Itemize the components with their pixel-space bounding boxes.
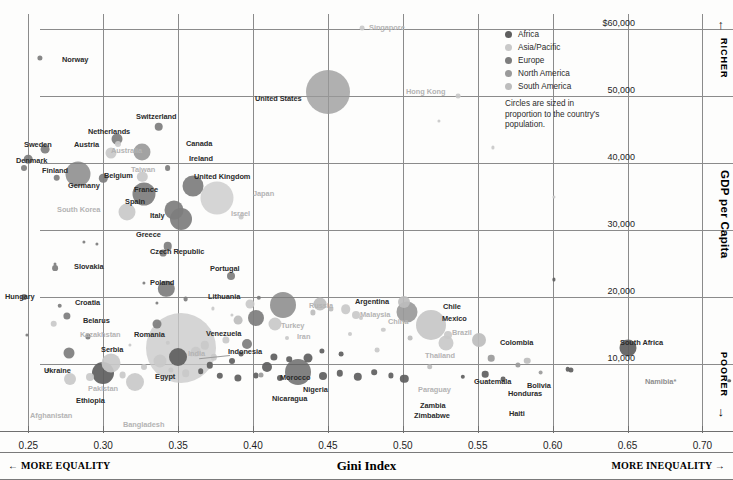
y-tick-label-10000: 10,000 <box>607 353 635 363</box>
bubble-nicaragua[interactable] <box>258 372 263 377</box>
country-label-greece: Greece <box>136 231 161 239</box>
bubble-unlabeled[interactable] <box>286 356 292 362</box>
x-axis-baseline <box>0 431 733 432</box>
bubble-ukraine[interactable] <box>63 347 74 358</box>
country-label-serbia: Serbia <box>101 346 123 354</box>
bubble-unlabeled[interactable] <box>388 373 393 378</box>
bubble-unlabeled[interactable] <box>142 281 145 284</box>
legend-item-europe[interactable]: Europe <box>505 54 635 67</box>
bubble-unlabeled[interactable] <box>285 336 289 340</box>
bubble-colombia[interactable] <box>472 333 486 347</box>
country-label-finland: Finland <box>42 167 68 175</box>
bubble-namibia[interactable] <box>565 367 570 372</box>
bubble-russia[interactable] <box>270 292 296 318</box>
bubble-haiti[interactable] <box>538 370 543 375</box>
bubble-morocco[interactable] <box>262 362 272 372</box>
country-label-slovakia: Slovakia <box>74 263 104 271</box>
bubble-unlabeled[interactable] <box>154 354 167 367</box>
bubble-unlabeled[interactable] <box>461 374 465 378</box>
bubble-unlabeled[interactable] <box>319 372 327 380</box>
bubble-romania[interactable] <box>153 320 162 329</box>
bubble-unlabeled[interactable] <box>182 370 190 378</box>
x-tick-mark-0.65 <box>628 426 629 433</box>
bubble-unlabeled[interactable] <box>246 300 255 309</box>
x-tick-label-0.55: 0.55 <box>468 440 487 451</box>
bubble-unlabeled[interactable] <box>319 349 324 354</box>
bubble-united-states[interactable] <box>306 70 350 114</box>
bubble-hong-kong[interactable] <box>456 93 461 98</box>
bubble-bangladesh[interactable] <box>126 373 144 391</box>
bubble-unlabeled[interactable] <box>156 301 159 304</box>
country-label-argentina: Argentina <box>355 298 389 306</box>
bubble-honduras[interactable] <box>516 362 521 367</box>
bubble-unlabeled[interactable] <box>553 195 556 198</box>
bubble-unlabeled[interactable] <box>206 362 212 368</box>
bubble-malaysia[interactable] <box>341 304 351 314</box>
bubble-unlabeled[interactable] <box>54 263 57 266</box>
bubble-unlabeled[interactable] <box>437 120 440 123</box>
bubble-guatemala[interactable] <box>488 355 495 362</box>
bubble-unlabeled[interactable] <box>129 343 132 346</box>
bubble-unlabeled[interactable] <box>270 354 277 361</box>
bubble-venezuela[interactable] <box>234 315 243 324</box>
bubble-unlabeled[interactable] <box>82 240 85 243</box>
bubble-paraguay[interactable] <box>427 364 433 370</box>
bubble-unlabeled[interactable] <box>211 307 214 310</box>
bubble-unlabeled[interactable] <box>234 374 241 381</box>
bubble-unlabeled[interactable] <box>310 310 315 315</box>
y-axis-poorer-label: POORER <box>719 352 729 397</box>
bubble-unlabeled[interactable] <box>381 328 385 332</box>
bubble-finland[interactable] <box>53 174 60 181</box>
bubble-belarus[interactable] <box>64 312 71 319</box>
bubble-japan[interactable] <box>201 181 234 214</box>
bubble-lithuania[interactable] <box>183 297 188 302</box>
bubble-switzerland[interactable] <box>154 122 163 131</box>
country-label-nicaragua: Nicaragua <box>272 395 307 403</box>
bubble-portugal[interactable] <box>227 272 235 280</box>
bubble-bolivia[interactable] <box>524 357 531 364</box>
x-tick-label-0.30: 0.30 <box>93 440 112 451</box>
legend-item-north-america[interactable]: North America <box>505 67 635 80</box>
legend-item-africa[interactable]: Africa <box>505 28 635 41</box>
bubble-chile[interactable] <box>398 296 410 308</box>
bubble-unlabeled[interactable] <box>229 358 235 364</box>
bubble-unlabeled[interactable] <box>257 295 261 299</box>
bubble-unlabeled[interactable] <box>491 146 494 149</box>
legend: AfricaAsia/PacificEuropeNorth AmericaSou… <box>505 28 635 131</box>
bubble-spain[interactable] <box>164 201 183 220</box>
bubble-unlabeled[interactable] <box>86 373 94 381</box>
bubble-turkey[interactable] <box>248 310 264 326</box>
bubble-unlabeled[interactable] <box>372 369 378 375</box>
bubble-unlabeled[interactable] <box>337 370 343 376</box>
bubble-unlabeled[interactable] <box>198 369 204 375</box>
bubble-pakistan[interactable] <box>101 353 120 372</box>
bubble-norway[interactable] <box>38 56 43 61</box>
bubble-unlabeled[interactable] <box>339 351 344 356</box>
country-label-afghanistan: Afghanistan <box>30 412 72 420</box>
bubble-croatia[interactable] <box>57 303 62 308</box>
country-label-paraguay: Paraguay <box>418 386 451 394</box>
bubble-unlabeled[interactable] <box>444 331 452 339</box>
bubble-unlabeled[interactable] <box>304 353 313 362</box>
bubble-unlabeled[interactable] <box>408 336 413 341</box>
bubble-slovakia[interactable] <box>52 265 58 271</box>
bubble-unlabeled[interactable] <box>96 242 99 245</box>
legend-item-asia-pacific[interactable]: Asia/Pacific <box>505 41 635 54</box>
bubble-egypt[interactable] <box>169 348 187 366</box>
country-label-venezuela: Venezuela <box>206 330 241 338</box>
bubble-denmark[interactable] <box>21 165 27 171</box>
bubble-unlabeled[interactable] <box>119 372 126 379</box>
right-arrow-icon: → <box>715 460 725 471</box>
bubble-unlabeled[interactable] <box>141 364 147 370</box>
bubble-unlabeled[interactable] <box>348 332 352 336</box>
bubble-unlabeled[interactable] <box>230 313 233 316</box>
bubble-ireland[interactable] <box>165 165 171 171</box>
bubble-unlabeled[interactable] <box>217 373 223 379</box>
bubble-singapore[interactable] <box>360 26 365 31</box>
bubble-unlabeled[interactable] <box>375 347 380 352</box>
bubble-kazakhstan[interactable] <box>50 320 57 327</box>
bubble-unlabeled[interactable] <box>553 278 556 281</box>
bubble-zimbabwe[interactable] <box>400 375 408 383</box>
legend-item-south-america[interactable]: South America <box>505 80 635 93</box>
bubble-unlabeled[interactable] <box>354 372 362 380</box>
